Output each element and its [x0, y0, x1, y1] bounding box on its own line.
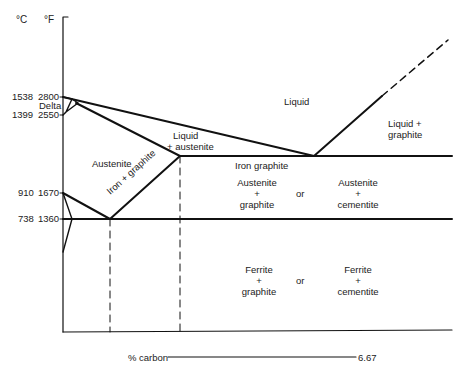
ferrite-graphite-line1: Ferrite [236, 264, 282, 275]
aust-cementite-line1: Austenite [330, 177, 386, 188]
ferrite-graphite-line3: graphite [236, 286, 282, 297]
y-axis [63, 17, 68, 332]
aust-graphite-line3: graphite [232, 199, 282, 210]
tick-1360f: 1360 [38, 213, 59, 224]
region-austenite-cementite: Austenite + cementite [330, 177, 386, 210]
carbon-max-label: 6.67 [358, 352, 377, 363]
carbon-axis-label: % carbon [128, 352, 168, 363]
aust-cementite-line2: + [330, 188, 386, 199]
region-liquid-austenite-line2: + austenite [167, 141, 214, 152]
tick-2550f: 2550 [38, 109, 59, 120]
tick-910c: 910 [18, 187, 34, 198]
region-liquid-austenite-line1: Liquid [167, 130, 214, 141]
ferrite-cementite-line2: + [330, 275, 386, 286]
region-liquid: Liquid [284, 96, 309, 107]
tick-1670f: 1670 [38, 187, 59, 198]
ferrite-bracket [63, 193, 72, 252]
tick-1399c: 1399 [12, 109, 33, 120]
graphite-liquidus [314, 96, 382, 156]
aust-cementite-line3: cementite [330, 199, 386, 210]
celsius-unit: °C [16, 14, 27, 25]
region-liquid-graphite-line2: graphite [388, 129, 428, 140]
region-liquid-graphite-line1: Liquid + [388, 118, 428, 129]
tick-1538c: 1538 [12, 91, 33, 102]
region-liquid-austenite: Liquid + austenite [167, 130, 214, 152]
fahrenheit-unit: °F [44, 14, 54, 25]
region-austenite-graphite: Austenite + graphite [232, 177, 282, 210]
region-liquid-graphite: Liquid + graphite [388, 118, 428, 140]
tick-738c: 738 [18, 213, 34, 224]
aust-graphite-line2: + [232, 188, 282, 199]
ferrite-cementite-line3: cementite [330, 286, 386, 297]
region-iron-graphite: Iron graphite [235, 160, 288, 171]
ferrite-graphite-line2: + [236, 275, 282, 286]
or-label-lower: or [296, 275, 304, 286]
ferrite-cementite-line1: Ferrite [330, 264, 386, 275]
graphite-liquidus-dashed [382, 40, 448, 96]
solidus-line [76, 103, 180, 156]
or-label-upper: or [296, 188, 304, 199]
x-axis [63, 330, 452, 332]
aust-graphite-line1: Austenite [232, 177, 282, 188]
region-ferrite-cementite: Ferrite + cementite [330, 264, 386, 297]
region-ferrite-graphite: Ferrite + graphite [236, 264, 282, 297]
